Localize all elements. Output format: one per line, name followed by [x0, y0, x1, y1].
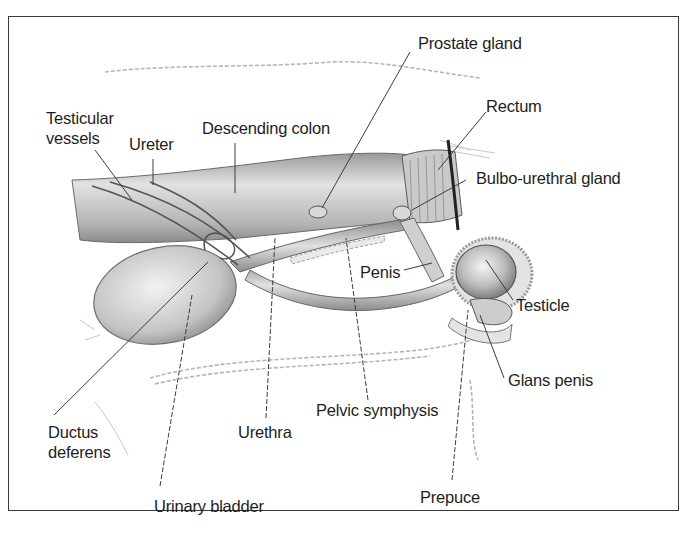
label-testicular-vessels-1: Testicular: [46, 108, 114, 128]
label-prepuce: Prepuce: [420, 487, 480, 507]
label-testicle: Testicle: [516, 295, 569, 315]
label-rectum: Rectum: [486, 96, 542, 116]
label-descending-colon: Descending colon: [202, 118, 330, 138]
label-urethra: Urethra: [238, 422, 292, 442]
prostate-gland-shape: [309, 206, 327, 218]
label-prostate-gland: Prostate gland: [418, 33, 522, 53]
label-pelvic-symphysis: Pelvic symphysis: [316, 400, 438, 420]
label-ductus-deferens-1: Ductus: [48, 422, 98, 442]
label-bulbo-urethral-gland: Bulbo-urethral gland: [476, 168, 621, 188]
label-ureter: Ureter: [129, 134, 174, 154]
label-glans-penis: Glans penis: [508, 370, 593, 390]
label-testicular-vessels-2: vessels: [46, 128, 100, 148]
bulbo-urethral-gland-shape: [393, 206, 411, 220]
label-ductus-deferens-2: deferens: [48, 442, 111, 462]
label-urinary-bladder: Urinary bladder: [154, 496, 264, 516]
label-penis: Penis: [360, 262, 400, 282]
